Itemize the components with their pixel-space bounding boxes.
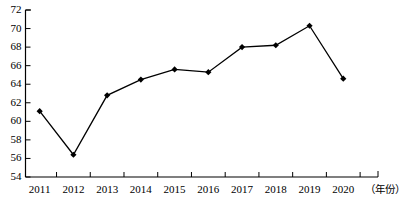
y-axis-label-60: 60 bbox=[0, 115, 22, 126]
y-axis-label-58: 58 bbox=[0, 134, 22, 145]
x-axis-ticks bbox=[57, 172, 361, 177]
y-axis-label-64: 64 bbox=[0, 78, 22, 89]
y-axis-label-70: 70 bbox=[0, 23, 22, 34]
x-axis-label-2013: 2013 bbox=[89, 184, 125, 195]
data-point-2019 bbox=[306, 23, 312, 29]
x-axis-label-2018: 2018 bbox=[258, 184, 294, 195]
data-point-2013 bbox=[104, 92, 110, 98]
x-axis-label-2019: 2019 bbox=[292, 184, 328, 195]
y-axis-label-66: 66 bbox=[0, 60, 22, 71]
x-axis-label-2020: 2020 bbox=[325, 184, 361, 195]
x-axis-title: （年份） bbox=[365, 184, 405, 195]
x-axis-label-2017: 2017 bbox=[224, 184, 260, 195]
data-point-2020 bbox=[340, 76, 346, 82]
x-axis-label-2011: 2011 bbox=[22, 184, 58, 195]
data-point-2014 bbox=[138, 76, 144, 82]
line-chart: 54565860626466687072 2011201220132014201… bbox=[0, 0, 413, 208]
x-axis-label-2015: 2015 bbox=[157, 184, 193, 195]
y-axis-label-72: 72 bbox=[0, 4, 22, 15]
data-point-2018 bbox=[273, 42, 279, 48]
chart-plot-area bbox=[0, 0, 413, 208]
x-axis-label-2012: 2012 bbox=[55, 184, 91, 195]
data-point-2015 bbox=[171, 66, 177, 72]
data-line-series bbox=[40, 26, 344, 155]
y-axis-label-62: 62 bbox=[0, 97, 22, 108]
y-axis-ticks bbox=[26, 10, 31, 177]
y-axis-label-56: 56 bbox=[0, 152, 22, 163]
x-axis-label-2014: 2014 bbox=[123, 184, 159, 195]
x-axis-label-2016: 2016 bbox=[190, 184, 226, 195]
y-axis-label-68: 68 bbox=[0, 41, 22, 52]
y-axis-label-54: 54 bbox=[0, 171, 22, 182]
